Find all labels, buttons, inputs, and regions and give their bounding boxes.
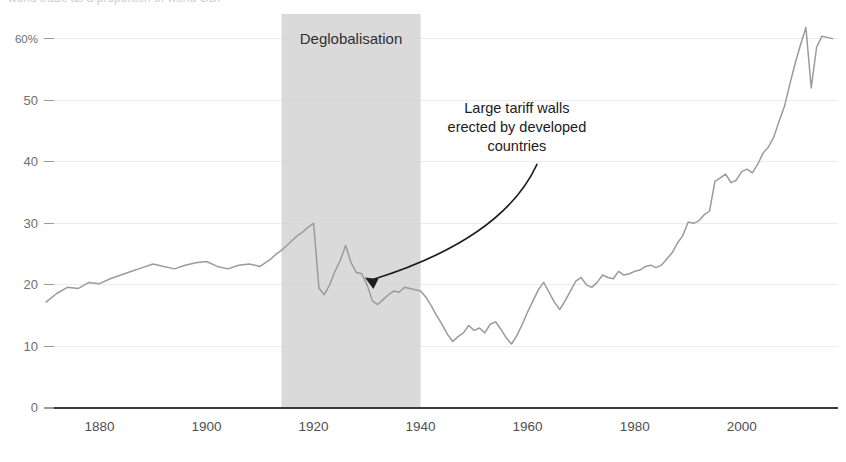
x-tick-label: 1940: [406, 419, 436, 434]
x-tick-label: 2000: [727, 419, 757, 434]
callout-line-1: Large tariff walls: [464, 100, 569, 116]
deglobalisation-label: Deglobalisation: [300, 30, 403, 47]
x-tick-label: 1880: [84, 419, 114, 434]
y-tick-label: 50: [24, 93, 38, 108]
y-tick-label: 0: [31, 400, 38, 415]
trade-share-line: [46, 28, 833, 344]
y-axis-ticks: [44, 39, 54, 408]
y-tick-label: 60%: [15, 33, 38, 45]
x-tick-label: 1900: [192, 419, 222, 434]
callout-line-3: countries: [487, 138, 546, 154]
gridlines: [54, 39, 838, 347]
y-tick-label: 30: [24, 216, 38, 231]
callout-line-2: erected by developed: [448, 119, 587, 135]
x-tick-label: 1920: [299, 419, 329, 434]
x-axis-labels: 1880190019201940196019802000: [84, 419, 756, 434]
y-tick-label: 20: [24, 277, 38, 292]
y-tick-label: 40: [24, 154, 38, 169]
y-axis-labels: 0102030405060%: [15, 33, 38, 416]
deglobalisation-shaded-band: [281, 14, 420, 408]
x-tick-label: 1980: [620, 419, 650, 434]
x-tick-label: 1960: [513, 419, 543, 434]
y-tick-label: 10: [24, 339, 38, 354]
chart-container: world trade as a proportion of world GDP…: [0, 0, 846, 462]
line-chart: 0102030405060% 1880190019201940196019802…: [0, 0, 846, 462]
